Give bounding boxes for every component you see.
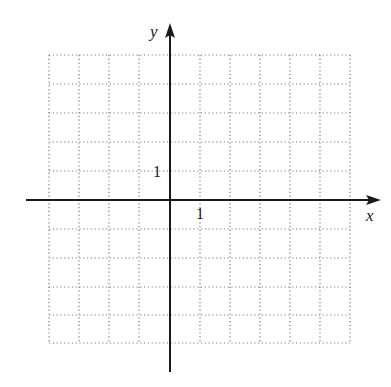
x-tick-label: 1 [196, 205, 204, 222]
x-axis-label: x [365, 206, 374, 225]
y-axis-label: y [148, 22, 158, 41]
y-tick-label: 1 [153, 163, 161, 180]
coordinate-plane: y x 1 1 [0, 0, 391, 387]
y-axis [165, 23, 175, 372]
